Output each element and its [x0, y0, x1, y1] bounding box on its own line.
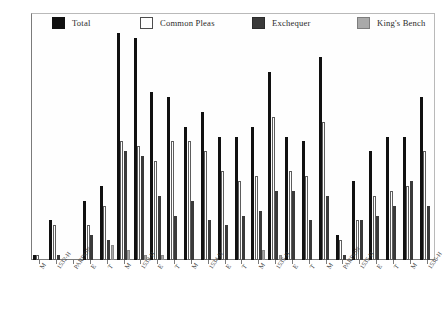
x-axis-tick-label: M — [38, 261, 47, 270]
legend-item-kb[interactable]: King's Bench — [357, 17, 426, 29]
x-axis-tick-label: 1535-H — [358, 250, 375, 270]
x-axis-tick-label: E — [375, 263, 383, 270]
legend-swatch-icon — [140, 17, 153, 29]
x-axis-tick-label: E — [156, 263, 164, 270]
x-axis-tick-label: E — [291, 263, 299, 270]
legend-swatch-icon — [357, 17, 370, 29]
x-axis-tick-label: 1533-H — [139, 250, 156, 270]
x-axis-tick-label: E — [224, 263, 232, 270]
legend-item-cp[interactable]: Common Pleas — [140, 17, 215, 29]
legend-label: Exchequer — [272, 18, 311, 28]
x-axis-tick-label: M — [257, 261, 266, 270]
x-axis: M1532-HPARDONETM1533-HETM1534-HETM1535-H… — [0, 0, 443, 320]
bar-chart: 05101520253035404550 M1532-HPARDONETM153… — [0, 0, 443, 320]
x-axis-tick-label: T — [106, 263, 114, 270]
x-axis-tick-label: M — [409, 261, 418, 270]
x-axis-tick-label: T — [173, 263, 181, 270]
x-axis-tick-label: E — [89, 263, 97, 270]
legend-label: King's Bench — [377, 18, 426, 28]
x-axis-tick-label: M — [325, 261, 334, 270]
x-axis-tick-label: 1534-H — [207, 250, 224, 270]
legend-item-exch[interactable]: Exchequer — [252, 17, 311, 29]
x-axis-tick-label: 1535-H — [274, 250, 291, 270]
legend-swatch-icon — [52, 17, 65, 29]
x-axis-tick-label: 1532-H — [55, 250, 72, 270]
legend-swatch-icon — [252, 17, 265, 29]
legend-label: Common Pleas — [160, 18, 215, 28]
legend-item-total[interactable]: Total — [52, 17, 91, 29]
x-axis-tick-label: T — [392, 263, 400, 270]
x-axis-tick-label: M — [190, 261, 199, 270]
x-axis-tick-label: T — [308, 263, 316, 270]
legend-label: Total — [72, 18, 91, 28]
x-axis-tick-label: T — [240, 263, 248, 270]
x-axis-tick-label: 1536-H — [426, 250, 443, 270]
x-axis-tick-label: M — [123, 261, 132, 270]
